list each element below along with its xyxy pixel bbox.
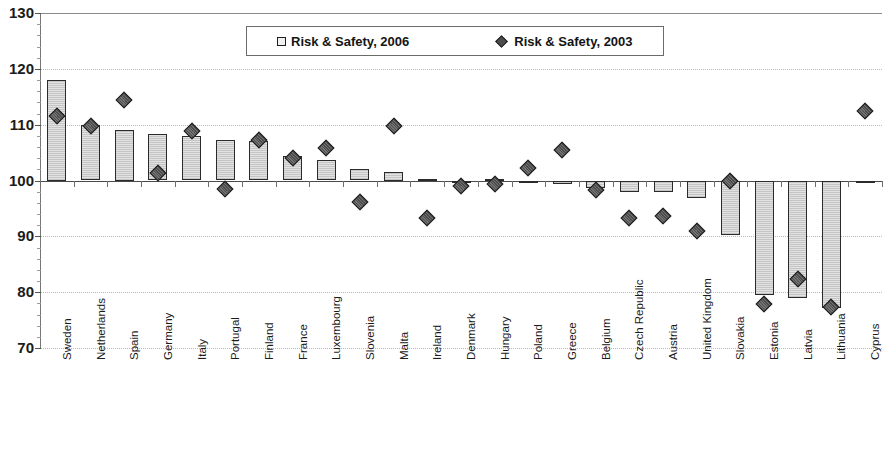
chart-legend: Risk & Safety, 2006 Risk & Safety, 2003	[246, 26, 664, 56]
x-axis-label-poland: Poland	[533, 324, 545, 360]
y-minor-tick	[37, 326, 41, 327]
y-tick-80	[35, 292, 41, 293]
x-axis-label-hungary: Hungary	[500, 317, 512, 360]
y-minor-tick	[37, 102, 41, 103]
legend-item-risk-safety-2006[interactable]: Risk & Safety, 2006	[277, 34, 409, 49]
y-minor-tick	[37, 259, 41, 260]
marker-ireland[interactable]	[419, 209, 436, 226]
bar-luxembourg[interactable]	[317, 160, 336, 181]
y-axis-label-120: 120	[0, 61, 34, 76]
legend-label-2006: Risk & Safety, 2006	[291, 34, 409, 49]
y-minor-tick	[37, 169, 41, 170]
x-tick	[175, 181, 176, 187]
x-tick	[545, 181, 546, 187]
bar-cyprus[interactable]	[856, 181, 875, 183]
legend-square-icon	[277, 37, 286, 46]
bar-portugal[interactable]	[216, 140, 235, 180]
bar-greece[interactable]	[553, 181, 572, 185]
y-minor-tick	[37, 91, 41, 92]
x-tick	[141, 181, 142, 187]
x-tick	[680, 181, 681, 187]
bar-czech-republic[interactable]	[620, 181, 639, 192]
x-axis-label-denmark: Denmark	[466, 313, 478, 360]
bar-estonia[interactable]	[755, 181, 774, 295]
x-axis-label-slovenia: Slovenia	[365, 316, 377, 360]
y-tick-90	[35, 236, 41, 237]
chart-root: 708090100110120130 SwedenNetherlandsSpai…	[0, 0, 887, 463]
x-tick	[444, 181, 445, 187]
plot-area	[40, 13, 882, 348]
x-axis-label-estonia: Estonia	[769, 322, 781, 360]
x-axis-label-czech-republic: Czech Republic	[634, 279, 646, 360]
x-axis-label-finland: Finland	[264, 322, 276, 360]
bar-spain[interactable]	[115, 130, 134, 180]
marker-hungary[interactable]	[486, 175, 503, 192]
bar-slovenia[interactable]	[350, 169, 369, 180]
y-minor-tick	[37, 281, 41, 282]
x-tick	[747, 181, 748, 187]
marker-luxembourg[interactable]	[318, 140, 335, 157]
marker-poland[interactable]	[520, 160, 537, 177]
x-tick	[377, 181, 378, 187]
x-axis-label-ireland: Ireland	[432, 325, 444, 360]
bar-austria[interactable]	[654, 181, 673, 192]
gridline-130	[40, 13, 882, 14]
marker-portugal[interactable]	[217, 180, 234, 197]
bar-lithuania[interactable]	[822, 181, 841, 308]
x-axis-label-malta: Malta	[399, 332, 411, 360]
x-tick	[781, 181, 782, 187]
x-tick	[714, 181, 715, 187]
y-minor-tick	[37, 337, 41, 338]
bar-united-kingdom[interactable]	[687, 181, 706, 199]
y-minor-tick	[37, 80, 41, 81]
x-tick	[410, 181, 411, 187]
y-minor-tick	[37, 270, 41, 271]
x-axis-label-portugal: Portugal	[230, 317, 242, 360]
marker-malta[interactable]	[385, 117, 402, 134]
y-minor-tick	[37, 147, 41, 148]
y-minor-tick	[37, 58, 41, 59]
marker-austria[interactable]	[655, 208, 672, 225]
x-axis-label-austria: Austria	[668, 324, 680, 360]
bar-malta[interactable]	[384, 172, 403, 180]
x-tick	[613, 181, 614, 187]
gridline-120	[40, 69, 882, 70]
x-tick	[74, 181, 75, 187]
legend-item-risk-safety-2003[interactable]: Risk & Safety, 2003	[495, 34, 632, 49]
y-minor-tick	[37, 248, 41, 249]
y-minor-tick	[37, 47, 41, 48]
y-minor-tick	[37, 35, 41, 36]
bar-sweden[interactable]	[47, 80, 66, 181]
x-axis-label-france: France	[298, 324, 310, 360]
marker-cyprus[interactable]	[857, 102, 874, 119]
x-axis-label-italy: Italy	[197, 339, 209, 360]
y-minor-tick	[37, 114, 41, 115]
y-tick-110	[35, 125, 41, 126]
x-axis-label-sweden: Sweden	[62, 318, 74, 360]
y-minor-tick	[37, 315, 41, 316]
marker-spain[interactable]	[116, 91, 133, 108]
x-axis-label-spain: Spain	[129, 331, 141, 360]
x-tick	[478, 181, 479, 187]
gridline-110	[40, 125, 882, 126]
marker-czech-republic[interactable]	[621, 210, 638, 227]
marker-greece[interactable]	[554, 141, 571, 158]
y-minor-tick	[37, 136, 41, 137]
x-tick	[815, 181, 816, 187]
x-tick	[208, 181, 209, 187]
x-axis-label-greece: Greece	[567, 322, 579, 360]
marker-slovenia[interactable]	[351, 193, 368, 210]
y-minor-tick	[37, 192, 41, 193]
bar-italy[interactable]	[182, 136, 201, 181]
bar-ireland[interactable]	[418, 179, 437, 181]
legend-label-2003: Risk & Safety, 2003	[514, 34, 632, 49]
x-axis-label-latvia: Latvia	[803, 329, 815, 360]
y-minor-tick	[37, 225, 41, 226]
x-tick	[848, 181, 849, 187]
bar-poland[interactable]	[519, 181, 538, 184]
x-tick	[646, 181, 647, 187]
marker-estonia[interactable]	[756, 296, 773, 313]
y-tick-120	[35, 69, 41, 70]
y-axis-label-100: 100	[0, 173, 34, 188]
legend-diamond-icon	[495, 35, 508, 48]
